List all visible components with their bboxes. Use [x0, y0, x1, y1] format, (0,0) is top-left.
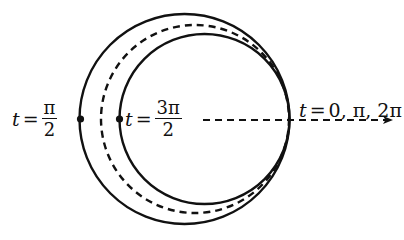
fraction-denominator: 2 — [44, 119, 55, 139]
label-t-3pi-over-2: t = 3π 2 — [125, 99, 182, 139]
label-variable: t — [299, 101, 307, 120]
label-variable: t — [125, 110, 133, 129]
point-t-3pi-over-2 — [116, 115, 123, 122]
label-t-0-pi-2pi: t = 0, π, 2π — [299, 101, 402, 120]
point-t-pi-over-2 — [77, 115, 84, 122]
fraction-denominator: 2 — [162, 119, 173, 139]
label-values: 0, π, 2π — [329, 101, 402, 120]
label-variable: t — [12, 110, 20, 129]
fraction: 3π 2 — [155, 99, 182, 139]
fraction-numerator: 3π — [155, 99, 182, 119]
label-equals: = — [310, 101, 326, 120]
fraction-numerator: π — [42, 99, 58, 119]
label-equals: = — [23, 110, 39, 129]
fraction: π 2 — [42, 99, 58, 139]
label-t-pi-over-2: t = π 2 — [12, 99, 57, 139]
label-equals: = — [136, 110, 152, 129]
